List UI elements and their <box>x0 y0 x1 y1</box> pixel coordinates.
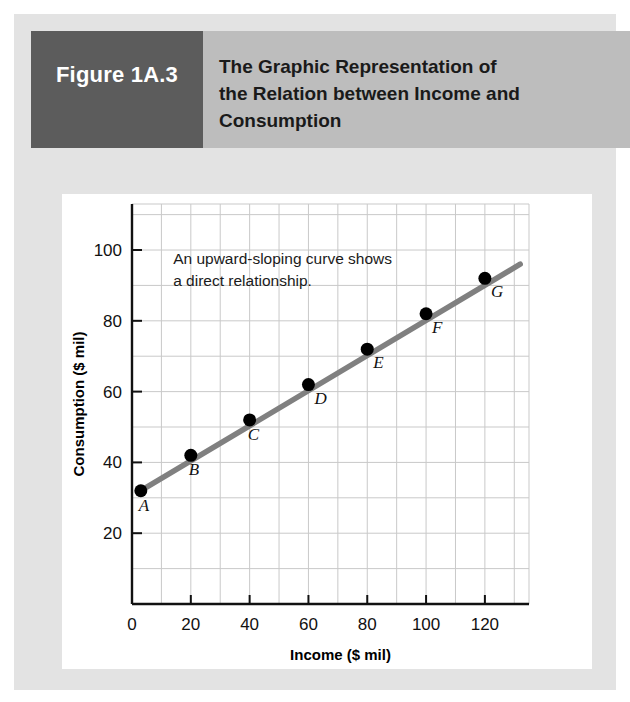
data-point-label: F <box>431 318 443 337</box>
x-tick-label: 100 <box>412 615 440 634</box>
x-tick-label: 40 <box>240 615 259 634</box>
line-chart: 02040608010012020406080100ABCDEFGAn upwa… <box>62 194 592 669</box>
y-axis-title: Consumption ($ mil) <box>70 332 87 477</box>
data-point-label: E <box>372 353 384 372</box>
x-tick-label: 60 <box>299 615 318 634</box>
figure-title-line-1: The Graphic Representation of <box>219 53 611 80</box>
figure-header: Figure 1A.3 The Graphic Representation o… <box>31 31 630 148</box>
data-line <box>141 264 520 491</box>
data-point-label: G <box>491 282 503 301</box>
data-point <box>478 272 491 285</box>
y-tick-label: 60 <box>103 383 122 402</box>
chart-annotation: An upward-sloping curve shows <box>173 250 392 267</box>
data-point <box>302 378 315 391</box>
data-point-label: D <box>313 389 327 408</box>
figure-title-line-3: Consumption <box>219 107 611 134</box>
x-tick-label: 20 <box>181 615 200 634</box>
y-tick-label: 40 <box>103 453 122 472</box>
y-tick-label: 100 <box>94 241 122 260</box>
data-point-label: C <box>248 425 260 444</box>
data-point <box>420 307 433 320</box>
y-tick-label: 20 <box>103 524 122 543</box>
x-tick-label: 0 <box>127 615 136 634</box>
data-point-label: A <box>138 496 150 515</box>
figure-tag-label: Figure 1A.3 <box>31 62 203 88</box>
figure-panel: Figure 1A.3 The Graphic Representation o… <box>14 14 616 690</box>
figure-root: Figure 1A.3 The Graphic Representation o… <box>0 0 630 702</box>
x-tick-label: 120 <box>471 615 499 634</box>
x-axis-title: Income ($ mil) <box>290 646 391 663</box>
figure-tag-box: Figure 1A.3 <box>31 31 203 148</box>
data-point <box>361 343 374 356</box>
y-tick-label: 80 <box>103 312 122 331</box>
figure-title-line-2: the Relation between Income and <box>219 80 611 107</box>
data-point-label: B <box>189 460 200 479</box>
x-tick-label: 80 <box>358 615 377 634</box>
chart-annotation: a direct relationship. <box>173 272 312 289</box>
chart-card: 02040608010012020406080100ABCDEFGAn upwa… <box>62 194 592 669</box>
figure-title: The Graphic Representation of the Relati… <box>219 53 611 134</box>
